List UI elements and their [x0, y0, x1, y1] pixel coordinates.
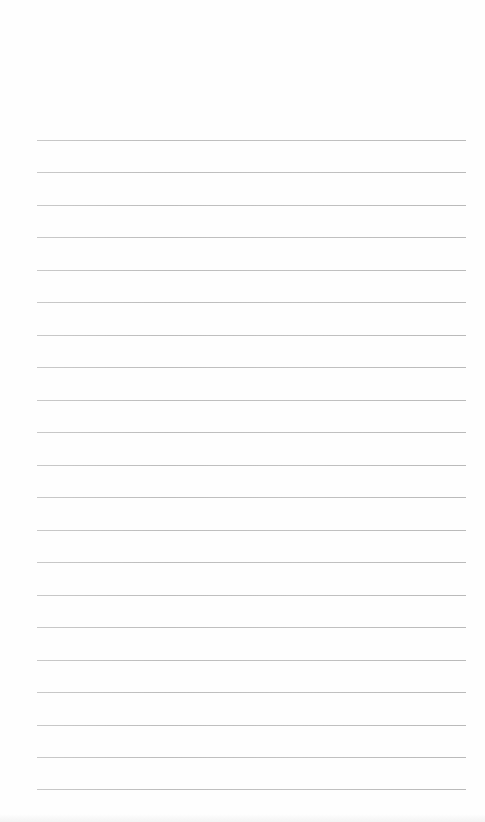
ruled-line [37, 595, 466, 596]
ruled-line [37, 400, 466, 401]
ruled-line [37, 660, 466, 661]
scan-bottom-edge [0, 814, 485, 822]
ruled-line [37, 530, 466, 531]
ruled-line [37, 497, 466, 498]
ruled-line [37, 627, 466, 628]
ruled-line [37, 172, 466, 173]
ruled-line [37, 757, 466, 758]
ruled-line [37, 205, 466, 206]
ruled-line [37, 302, 466, 303]
ruled-line [37, 270, 466, 271]
ruled-line [37, 725, 466, 726]
lined-paper-page [0, 0, 485, 822]
ruled-line [37, 237, 466, 238]
ruled-line [37, 465, 466, 466]
ruled-line [37, 432, 466, 433]
ruled-line [37, 562, 466, 563]
ruled-line [37, 367, 466, 368]
ruled-line [37, 789, 466, 790]
ruled-line [37, 692, 466, 693]
ruled-line [37, 140, 466, 141]
ruled-line [37, 335, 466, 336]
